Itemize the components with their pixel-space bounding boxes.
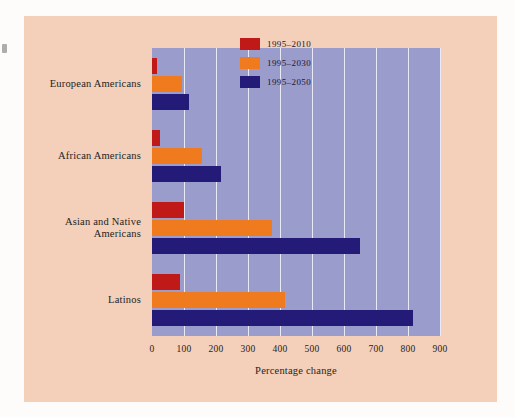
gridline <box>440 48 441 336</box>
x-axis-tick-label: 0 <box>149 344 154 354</box>
x-axis-tick-label: 200 <box>208 344 223 354</box>
x-axis-tick-label: 800 <box>400 344 415 354</box>
legend-label: 1995–2050 <box>267 77 311 87</box>
bar <box>152 58 157 74</box>
x-axis-tick-label: 100 <box>176 344 191 354</box>
x-axis-tick <box>215 336 216 341</box>
x-axis-tick <box>279 336 280 341</box>
legend-swatch <box>240 57 260 69</box>
x-axis-tick-label: 600 <box>336 344 351 354</box>
category-label-line: Asian and Native <box>0 216 141 228</box>
bar <box>152 292 285 308</box>
bar <box>152 94 189 110</box>
bar <box>152 274 180 290</box>
x-axis-tick-label: 500 <box>304 344 319 354</box>
legend-item[interactable]: 1995–2030 <box>240 53 311 72</box>
x-axis-tick <box>439 336 440 341</box>
x-axis-tick <box>407 336 408 341</box>
bar <box>152 76 182 92</box>
category-label-line: Latinos <box>0 294 141 306</box>
legend-label: 1995–2010 <box>267 39 311 49</box>
bar <box>152 202 184 218</box>
legend-swatch <box>240 38 260 50</box>
bar <box>152 130 160 146</box>
legend-item[interactable]: 1995–2050 <box>240 72 311 91</box>
bar-group <box>152 202 440 254</box>
x-axis-tick-label: 400 <box>272 344 287 354</box>
x-axis-tick <box>151 336 152 341</box>
category-label-line: Americans <box>0 228 141 240</box>
x-axis-tick <box>343 336 344 341</box>
bar-group <box>152 274 440 326</box>
category-label: Asian and NativeAmericans <box>0 216 141 240</box>
category-label-line: African Americans <box>0 150 141 162</box>
x-axis-tick-label: 900 <box>432 344 447 354</box>
bar <box>152 148 202 164</box>
bar <box>152 166 221 182</box>
x-axis-tick <box>375 336 376 341</box>
x-axis-tick-label: 700 <box>368 344 383 354</box>
bar-group <box>152 130 440 182</box>
x-axis-tick <box>183 336 184 341</box>
legend-swatch <box>240 76 260 88</box>
page-sheet: European AmericansAfrican AmericansAsian… <box>0 0 515 417</box>
bar <box>152 238 360 254</box>
bar <box>152 310 413 326</box>
x-axis-tick <box>247 336 248 341</box>
category-label-line: European Americans <box>0 78 141 90</box>
x-axis-tick <box>311 336 312 341</box>
bar <box>152 220 272 236</box>
legend-label: 1995–2030 <box>267 58 311 68</box>
figure-panel: European AmericansAfrican AmericansAsian… <box>24 16 497 402</box>
x-axis-tick-label: 300 <box>240 344 255 354</box>
chart-legend: 1995–20101995–20301995–2050 <box>240 34 311 91</box>
plot-area <box>152 48 440 336</box>
category-label: European Americans <box>0 78 141 90</box>
category-label: African Americans <box>0 150 141 162</box>
x-axis-title: Percentage change <box>152 365 440 376</box>
category-label: Latinos <box>0 294 141 306</box>
legend-item[interactable]: 1995–2010 <box>240 34 311 53</box>
page-gutter-mark <box>2 44 7 53</box>
